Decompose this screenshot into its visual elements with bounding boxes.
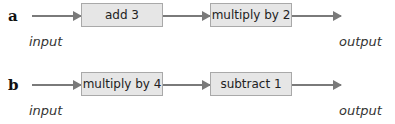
function-machine-a: a add 3 multiply by 2 input output bbox=[0, 0, 395, 60]
step-box: multiply by 4 bbox=[81, 72, 163, 96]
function-machine-b: b multiply by 4 subtract 1 input output bbox=[0, 69, 395, 124]
diagram-label: b bbox=[8, 76, 19, 94]
diagram-label: a bbox=[8, 7, 18, 25]
arrow-icon bbox=[163, 15, 210, 17]
arrow-icon bbox=[292, 84, 341, 86]
input-label: input bbox=[29, 103, 62, 118]
step-box: subtract 1 bbox=[210, 72, 292, 96]
output-label: output bbox=[339, 34, 382, 49]
arrow-icon bbox=[292, 15, 341, 17]
step-box: add 3 bbox=[81, 3, 163, 27]
output-label: output bbox=[339, 103, 382, 118]
input-label: input bbox=[29, 34, 62, 49]
step-box: multiply by 2 bbox=[210, 3, 292, 27]
arrow-icon bbox=[32, 84, 81, 86]
arrow-icon bbox=[32, 15, 81, 17]
arrow-icon bbox=[163, 84, 210, 86]
